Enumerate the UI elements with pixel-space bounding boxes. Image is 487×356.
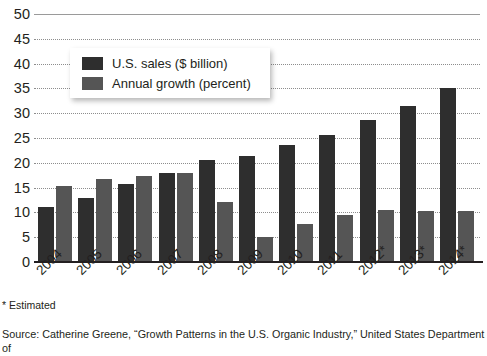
bar-growth [177, 173, 193, 262]
bar-group [319, 14, 355, 262]
bar-growth [136, 176, 152, 262]
bar-sales [360, 120, 376, 262]
y-tick-label: 15 [4, 181, 30, 196]
y-tick-label: 20 [4, 156, 30, 171]
bar-growth [96, 179, 112, 262]
legend-label: Annual growth (percent) [112, 77, 251, 90]
bar-group [360, 14, 396, 262]
bar-sales [319, 135, 335, 262]
y-tick-label: 5 [4, 230, 30, 245]
y-tick-label: 50 [4, 7, 30, 22]
y-tick-label: 45 [4, 32, 30, 47]
bar-group [38, 14, 74, 262]
legend-swatch-icon [82, 57, 103, 70]
y-tick-label: 30 [4, 106, 30, 121]
legend-label: U.S. sales ($ billion) [112, 57, 228, 70]
y-tick-label: 10 [4, 205, 30, 220]
y-tick-label: 0 [4, 255, 30, 270]
bar-sales [239, 156, 255, 262]
y-axis: 50454035302520151050 [0, 0, 30, 262]
bar-sales [199, 160, 215, 262]
bar-sales [440, 88, 456, 262]
y-tick-label: 40 [4, 57, 30, 72]
source-citation: Source: Catherine Greene, “Growth Patter… [2, 327, 485, 356]
legend-item: Annual growth (percent) [82, 74, 260, 93]
legend-item: U.S. sales ($ billion) [82, 54, 260, 73]
y-tick-label: 35 [4, 81, 30, 96]
legend-swatch-icon [82, 77, 103, 90]
chart-legend: U.S. sales ($ billion)Annual growth (per… [70, 48, 270, 98]
estimated-footnote: * Estimated [2, 299, 56, 312]
bar-group [440, 14, 476, 262]
bar-sales [400, 106, 416, 262]
y-tick-label: 25 [4, 131, 30, 146]
bar-group [400, 14, 436, 262]
bar-sales [279, 145, 295, 262]
bar-group [279, 14, 315, 262]
